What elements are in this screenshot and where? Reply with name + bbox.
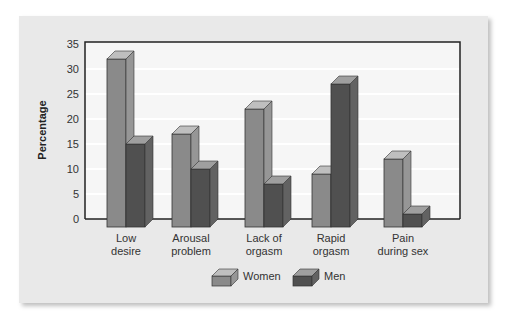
x-tick-label: problem — [171, 245, 211, 257]
x-tick-label: orgasm — [313, 245, 350, 257]
y-tick-label: 5 — [73, 188, 79, 200]
y-axis-label: Percentage — [36, 100, 48, 159]
y-tick-label: 15 — [67, 138, 79, 150]
x-tick-label: Arousal — [172, 232, 209, 244]
y-tick-label: 30 — [67, 63, 79, 75]
x-tick-label: Pain — [392, 232, 414, 244]
bar-women — [312, 174, 331, 227]
bar-women — [245, 109, 264, 227]
bar-men — [264, 184, 283, 227]
chart-panel: 05101520253035 Percentage LowdesireArous… — [0, 0, 514, 327]
bar-men — [126, 144, 145, 227]
x-tick-label: desire — [111, 245, 141, 257]
x-tick-label: Lack of — [246, 232, 282, 244]
y-tick-label: 20 — [67, 113, 79, 125]
legend-label: Women — [243, 270, 281, 282]
x-tick-label: Low — [116, 232, 136, 244]
y-tick-label: 0 — [73, 213, 79, 225]
x-tick-label: during sex — [378, 245, 429, 257]
bar-women — [107, 59, 126, 227]
legend-swatch — [293, 276, 312, 286]
bar-women — [384, 159, 403, 227]
legend-swatch — [212, 276, 231, 286]
bar-men — [191, 169, 210, 227]
x-tick-label: Rapid — [317, 232, 346, 244]
bar-women — [172, 134, 191, 227]
y-tick-label: 35 — [67, 38, 79, 50]
x-tick-label: orgasm — [246, 245, 283, 257]
y-tick-label: 10 — [67, 163, 79, 175]
bar-chart: 05101520253035 Percentage LowdesireArous… — [0, 0, 514, 327]
y-tick-label: 25 — [67, 88, 79, 100]
bar-men — [331, 84, 350, 227]
legend-label: Men — [324, 270, 345, 282]
bar-men — [403, 214, 422, 227]
